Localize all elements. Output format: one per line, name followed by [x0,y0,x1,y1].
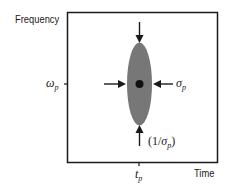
x-axis-label: Time [194,168,214,179]
center-dot [136,80,144,88]
y-tick-label-omega-p: ωp [46,77,58,92]
time-frequency-diagram [0,0,229,188]
x-tick-label-t-p: tp [135,168,142,183]
arrow-right [153,80,173,88]
arrow-bottom [136,125,144,146]
arrow-left [104,80,126,88]
sigma-p-label: σp [176,77,186,92]
inverse-sigma-p-label: (1/σp) [148,135,175,150]
y-axis-label: Frequency [15,14,59,25]
arrow-top [136,22,144,43]
